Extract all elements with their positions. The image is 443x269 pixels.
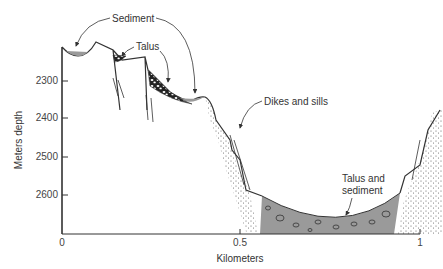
y-tick-2500: 2500 (36, 151, 59, 162)
label-sediment: Sediment (112, 13, 154, 24)
label-dikes-and-sills: Dikes and sills (264, 96, 328, 107)
label-talus-and-sediment-1: Talus and (342, 173, 385, 184)
talus-sediment-fill (260, 193, 400, 234)
y-tick-2400: 2400 (36, 112, 59, 123)
talus-wedge-1 (113, 55, 126, 62)
y-tick-2600: 2600 (36, 189, 59, 200)
y-axis-label: Meters depth (13, 111, 24, 169)
label-talus-and-sediment-2: sediment (342, 185, 383, 196)
dike-zone-right (398, 110, 443, 234)
x-tick-0: 0 (59, 237, 65, 248)
cross-section-diagram: 2300 2400 2500 2600 0 0.5 1 Meters depth… (0, 0, 443, 269)
label-talus: Talus (136, 41, 159, 52)
y-axis (62, 47, 68, 234)
x-tick-1: 1 (417, 237, 423, 248)
dike-zone-left (205, 97, 258, 232)
x-axis-label: Kilometers (216, 253, 263, 264)
seafloor-profile (62, 42, 262, 234)
x-tick-0-5: 0.5 (233, 237, 247, 248)
y-tick-2300: 2300 (36, 75, 59, 86)
